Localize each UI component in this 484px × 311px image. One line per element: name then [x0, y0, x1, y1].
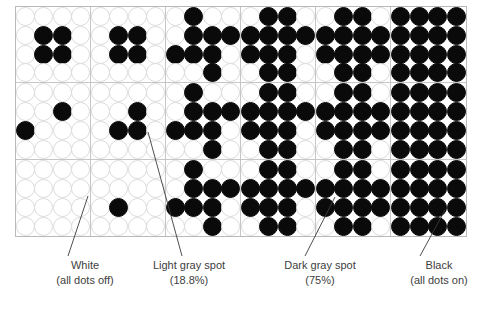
dot-slot	[128, 121, 147, 140]
dot-on	[371, 179, 390, 198]
dot-slot	[297, 102, 316, 121]
dot-slot	[110, 121, 129, 140]
dot-slot	[353, 83, 372, 102]
dot-off	[91, 102, 110, 121]
dot-off	[128, 179, 147, 198]
dot-on	[428, 45, 447, 64]
dot-on	[203, 45, 222, 64]
dot-on	[34, 26, 53, 45]
dot-on	[428, 83, 447, 102]
dot-slot	[185, 160, 204, 179]
dot-slot	[110, 7, 129, 26]
dot-slot	[429, 63, 448, 82]
dot-slot	[429, 7, 448, 26]
dot-slot	[447, 179, 466, 198]
dot-on	[278, 198, 297, 217]
halftone-cell-r2-c1	[16, 83, 91, 159]
dot-off	[166, 217, 185, 236]
dot-slot	[166, 160, 185, 179]
dot-slot	[353, 63, 372, 82]
dot-slot	[16, 26, 35, 45]
dot-slot	[72, 198, 91, 217]
dot-slot	[335, 179, 354, 198]
dot-slot	[372, 45, 391, 64]
dot-slot	[166, 45, 185, 64]
dot-slot	[147, 198, 166, 217]
dot-slot	[447, 160, 466, 179]
dot-on	[334, 198, 353, 217]
dot-slot	[222, 160, 241, 179]
dot-slot	[353, 26, 372, 45]
caption-dark-gray-line1: Dark gray spot	[284, 259, 356, 271]
dot-off	[91, 217, 110, 236]
dot-off	[296, 121, 315, 140]
dot-slot	[53, 140, 72, 159]
dot-slot	[278, 7, 297, 26]
dot-slot	[353, 217, 372, 236]
dot-off	[16, 7, 35, 26]
dot-off	[371, 217, 390, 236]
dot-slot	[222, 179, 241, 198]
dot-on	[353, 26, 372, 45]
dot-slot	[297, 26, 316, 45]
dot-slot	[353, 140, 372, 159]
dot-on	[278, 63, 297, 82]
dot-slot	[166, 121, 185, 140]
dot-slot	[16, 140, 35, 159]
dot-slot	[147, 102, 166, 121]
dot-slot	[391, 160, 410, 179]
dot-slot	[203, 217, 222, 236]
dot-on	[428, 26, 447, 45]
dot-slot	[410, 63, 429, 82]
dot-on	[203, 63, 222, 82]
dot-slot	[16, 217, 35, 236]
dot-off	[34, 121, 53, 140]
dot-slot	[429, 102, 448, 121]
dot-off	[166, 102, 185, 121]
dot-slot	[72, 160, 91, 179]
dot-on	[128, 45, 147, 64]
dot-slot	[335, 121, 354, 140]
dot-on	[241, 198, 260, 217]
dot-slot	[410, 121, 429, 140]
dot-on	[447, 63, 466, 82]
dot-on	[203, 26, 222, 45]
dot-slot	[72, 45, 91, 64]
dot-slot	[316, 26, 335, 45]
dot-slot	[72, 121, 91, 140]
dot-off	[221, 198, 240, 217]
dot-slot	[372, 63, 391, 82]
dot-slot	[72, 7, 91, 26]
dot-slot	[372, 160, 391, 179]
dot-off	[91, 140, 110, 159]
dot-on	[316, 45, 335, 64]
dot-on	[296, 179, 315, 198]
dot-on	[278, 7, 297, 26]
dot-slot	[53, 7, 72, 26]
dot-off	[146, 121, 165, 140]
dot-on	[447, 83, 466, 102]
dot-slot	[241, 160, 260, 179]
dot-slot	[316, 102, 335, 121]
dot-slot	[147, 179, 166, 198]
dot-slot	[128, 140, 147, 159]
dot-slot	[203, 83, 222, 102]
dot-slot	[128, 179, 147, 198]
dot-on	[316, 198, 335, 217]
dot-slot	[91, 26, 110, 45]
dot-slot	[260, 7, 279, 26]
dot-off	[371, 63, 390, 82]
dot-off	[316, 63, 335, 82]
halftone-cell-r1-c2	[91, 7, 166, 83]
dot-off	[371, 7, 390, 26]
dot-on	[391, 121, 410, 140]
halftone-cell-r1-c4	[241, 7, 316, 83]
dot-on	[316, 121, 335, 140]
dot-off	[16, 217, 35, 236]
dot-slot	[110, 83, 129, 102]
dot-off	[71, 83, 90, 102]
dot-slot	[297, 45, 316, 64]
dot-slot	[372, 217, 391, 236]
dot-slot	[335, 7, 354, 26]
dot-on	[203, 102, 222, 121]
